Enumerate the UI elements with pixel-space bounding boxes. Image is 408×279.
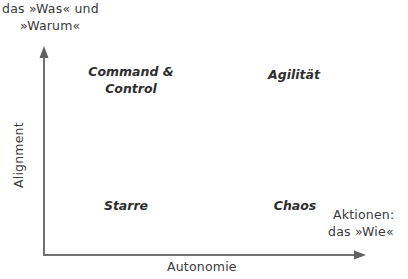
y-axis-label: Alignment <box>11 122 26 188</box>
x-axis-end-label-line2: das »Wie« <box>328 224 394 239</box>
x-axis-end-label-line1: Aktionen: <box>333 207 394 222</box>
y-axis-arrowhead <box>40 46 49 58</box>
x-axis-arrowhead <box>354 251 366 260</box>
y-axis-end-label-line2: »Warum« <box>20 18 80 33</box>
quadrant-command-control-line2: Control <box>86 81 176 96</box>
x-axis-label: Autonomie <box>167 259 237 274</box>
quadrant-command-control-line1: Command & <box>86 64 176 79</box>
quadrant-starre: Starre <box>98 198 154 213</box>
quadrant-chaos: Chaos <box>270 198 320 213</box>
quadrant-agilitaet: Agilität <box>262 67 326 82</box>
y-axis-end-label-line1: das »Was« und <box>2 1 99 16</box>
